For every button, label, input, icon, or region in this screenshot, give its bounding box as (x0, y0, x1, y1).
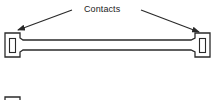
arrow-right-icon (141, 10, 199, 32)
contacts-diagram: Contacts (0, 0, 214, 100)
partial-square (5, 97, 20, 100)
arrow-left-icon (18, 10, 72, 30)
left-contact-slot (10, 39, 16, 53)
diagram-canvas (0, 0, 214, 100)
bar-outline (5, 33, 210, 57)
right-contact-slot (200, 39, 206, 53)
contacts-label: Contacts (84, 4, 120, 14)
